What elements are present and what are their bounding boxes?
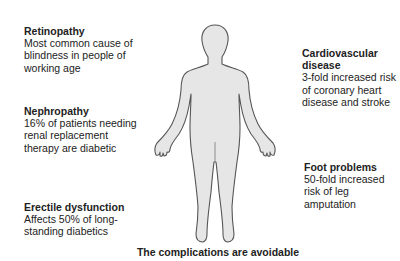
annotation-body: 3-fold increased risk of coronary heart … — [302, 71, 400, 108]
annotation-title: Cardiovascular disease — [302, 47, 400, 71]
annotation-cardiovascular-disease: Cardiovascular disease 3-fold increased … — [302, 47, 400, 108]
annotation-title: Erectile dysfunction — [24, 201, 134, 213]
annotation-foot-problems: Foot problems 50-fold increased risk of … — [304, 161, 400, 210]
annotation-nephropathy: Nephropathy 16% of patients needing rena… — [24, 105, 139, 154]
annotation-body: Affects 50% of long-standing diabetics — [24, 213, 134, 237]
annotation-title: Foot problems — [304, 161, 400, 173]
annotation-body: 50-fold increased risk of leg amputation — [304, 173, 400, 210]
annotation-title: Retinopathy — [24, 25, 139, 37]
annotation-title: Nephropathy — [24, 105, 139, 117]
annotation-retinopathy: Retinopathy Most common cause of blindne… — [24, 25, 139, 74]
annotation-body: 16% of patients needing renal replacemen… — [24, 117, 139, 154]
annotation-body: Most common cause of blindness in people… — [24, 37, 139, 74]
caption: The complications are avoidable — [128, 246, 308, 258]
human-body-outline-icon — [150, 22, 280, 244]
annotation-erectile-dysfunction: Erectile dysfunction Affects 50% of long… — [24, 201, 134, 238]
